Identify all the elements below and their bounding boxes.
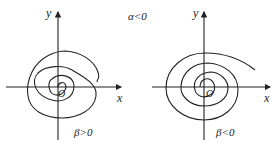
spiral-diagrams <box>0 0 276 148</box>
top-condition: α<0 <box>128 10 147 22</box>
left-condition: β>0 <box>74 126 92 138</box>
left-origin-label: O <box>58 88 65 99</box>
right-x-label: x <box>264 91 269 106</box>
right-origin-label: O <box>206 88 213 99</box>
right-phase-portrait <box>152 12 270 140</box>
left-y-label: y <box>46 6 51 21</box>
left-x-label: x <box>117 91 122 106</box>
right-y-label: y <box>193 6 198 21</box>
right-condition: β<0 <box>216 126 234 138</box>
left-phase-portrait <box>6 12 121 140</box>
left-spiral <box>27 51 98 118</box>
